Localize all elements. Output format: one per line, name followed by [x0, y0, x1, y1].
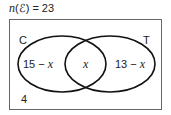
venn-diagram: C T 15 − x x 13 − x 4 — [0, 0, 171, 115]
region-c-only-number: 15 − — [23, 58, 48, 70]
region-t-only: 13 − x — [115, 57, 146, 71]
set-c-label: C — [19, 34, 27, 46]
region-intersection: x — [82, 57, 89, 71]
region-t-only-number: 13 − — [115, 58, 140, 70]
region-c-only-variable: x — [47, 57, 54, 71]
region-t-only-variable: x — [139, 57, 146, 71]
region-c-only: 15 − x — [23, 57, 54, 71]
set-t-label: T — [143, 34, 150, 46]
region-outside: 4 — [21, 93, 27, 105]
